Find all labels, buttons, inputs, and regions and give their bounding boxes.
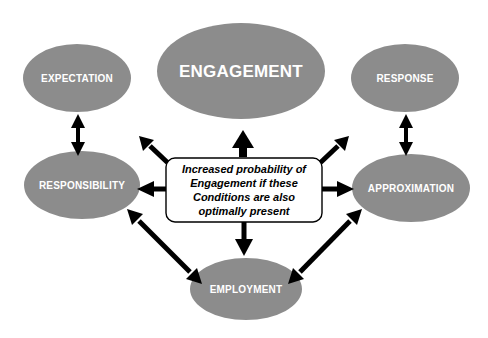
arrow-shaft bbox=[320, 146, 338, 163]
arrow-head-right-icon bbox=[337, 181, 354, 197]
arrow-box-to-engagement bbox=[232, 130, 254, 157]
arrow-box-to-approximation bbox=[322, 181, 354, 197]
arrow-box-to-responsibility bbox=[137, 181, 166, 197]
engagement-model-diagram: EXPECTATION ENGAGEMENT RESPONSE RESPONSI… bbox=[0, 0, 488, 338]
arrow-shaft bbox=[150, 146, 168, 163]
arrow-box-to-response bbox=[320, 136, 349, 163]
conditions-box-line-4: optimally present bbox=[198, 205, 290, 217]
arrow-response-approximation bbox=[399, 114, 413, 156]
conditions-box-line-3: Conditions are also bbox=[193, 191, 295, 203]
response-label: RESPONSE bbox=[376, 73, 433, 84]
node-employment[interactable]: EMPLOYMENT bbox=[190, 258, 302, 320]
employment-label: EMPLOYMENT bbox=[210, 284, 283, 295]
arrow-box-to-expectation bbox=[139, 136, 168, 163]
node-responsibility[interactable]: RESPONSIBILITY bbox=[24, 151, 140, 219]
arrow-box-to-employment bbox=[235, 222, 253, 256]
arrow-head-up-icon bbox=[71, 114, 85, 128]
conditions-box-line-1: Increased probability of bbox=[182, 163, 307, 175]
arrow-shaft bbox=[139, 221, 190, 272]
node-engagement[interactable]: ENGAGEMENT bbox=[157, 23, 325, 119]
responsibility-label: RESPONSIBILITY bbox=[39, 180, 125, 191]
arrow-head-up-icon bbox=[399, 114, 413, 128]
engagement-label: ENGAGEMENT bbox=[179, 62, 303, 81]
expectation-label: EXPECTATION bbox=[41, 73, 113, 84]
node-response[interactable]: RESPONSE bbox=[351, 44, 459, 112]
arrow-expectation-responsibility bbox=[71, 114, 85, 156]
node-approximation[interactable]: APPROXIMATION bbox=[352, 154, 470, 222]
arrow-head-down-icon bbox=[399, 142, 413, 156]
conditions-box-line-2: Engagement if these bbox=[190, 177, 298, 189]
diagram-canvas: EXPECTATION ENGAGEMENT RESPONSE RESPONSI… bbox=[0, 0, 488, 338]
arrow-head-up-icon bbox=[232, 130, 254, 148]
arrow-shaft bbox=[300, 221, 350, 272]
approximation-label: APPROXIMATION bbox=[368, 183, 454, 194]
conditions-box[interactable]: Increased probability of Engagement if t… bbox=[166, 158, 322, 222]
arrow-head-down-icon bbox=[235, 239, 253, 256]
node-expectation[interactable]: EXPECTATION bbox=[23, 44, 131, 112]
